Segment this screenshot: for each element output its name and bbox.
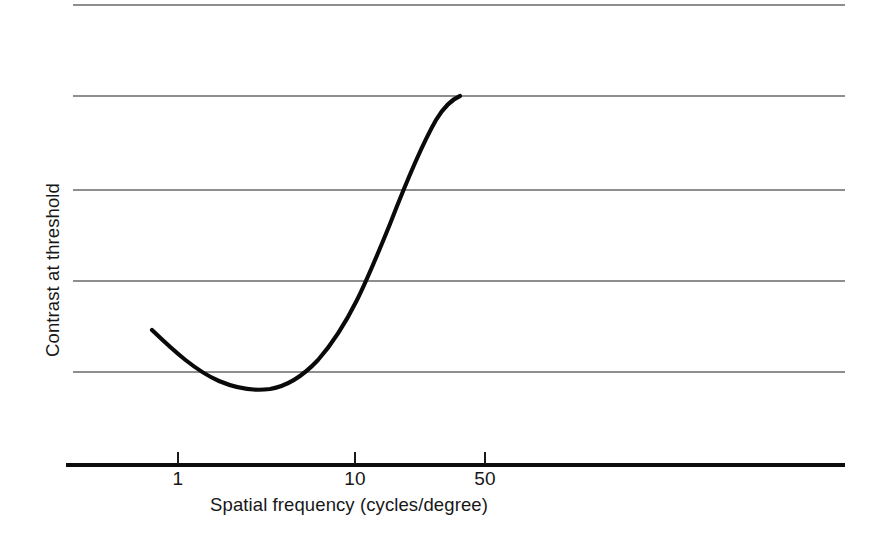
x-tick-label-1: 1 — [173, 468, 184, 490]
x-tick-label-50: 50 — [474, 468, 496, 490]
x-tick-label-10: 10 — [344, 468, 366, 490]
gridline-group — [73, 5, 845, 372]
contrast-threshold-curve — [152, 96, 460, 390]
x-axis-group — [66, 452, 845, 465]
plot-area — [0, 0, 887, 553]
x-axis-label: Spatial frequency (cycles/degree) — [210, 494, 488, 516]
y-axis-label: Contrast at threshold — [42, 183, 64, 357]
contrast-threshold-figure: 1 10 50 Spatial frequency (cycles/degree… — [0, 0, 887, 553]
